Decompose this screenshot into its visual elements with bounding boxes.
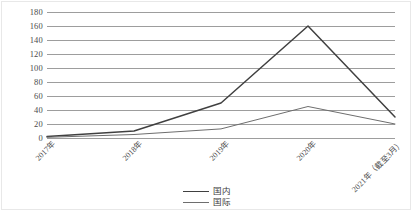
y-tick-label-0: 0 [39,134,43,143]
y-tick-label-60: 60 [34,92,43,101]
chart-legend: 国内国际 [0,186,414,207]
y-tick-label-160: 160 [30,22,43,31]
y-tick-label-80: 80 [34,78,43,87]
y-axis-tick-labels: 020406080100120140160180 [0,12,43,138]
legend-item-国内[interactable]: 国内 [183,186,231,196]
line-chart: 020406080100120140160180 2017年2018年2019年… [0,0,414,213]
y-tick-label-180: 180 [30,8,43,17]
x-tick-label-1: 2018年 [121,139,145,163]
x-tick-label-2: 2019年 [208,139,232,163]
y-tick-label-100: 100 [30,64,43,73]
legend-label: 国际 [213,197,231,207]
legend-item-国际[interactable]: 国际 [183,197,231,207]
y-tick-label-20: 20 [34,120,43,129]
y-tick-label-120: 120 [30,50,43,59]
series-line-国内 [47,26,395,137]
legend-label: 国内 [213,186,231,196]
legend-swatch-icon [183,202,209,203]
plot-area [47,12,395,138]
x-tick-label-0: 2017年 [34,139,58,163]
y-tick-label-140: 140 [30,36,43,45]
y-tick-label-40: 40 [34,106,43,115]
legend-swatch-icon [183,191,209,192]
series-layer [47,12,395,138]
x-tick-label-3: 2020年 [295,139,319,163]
